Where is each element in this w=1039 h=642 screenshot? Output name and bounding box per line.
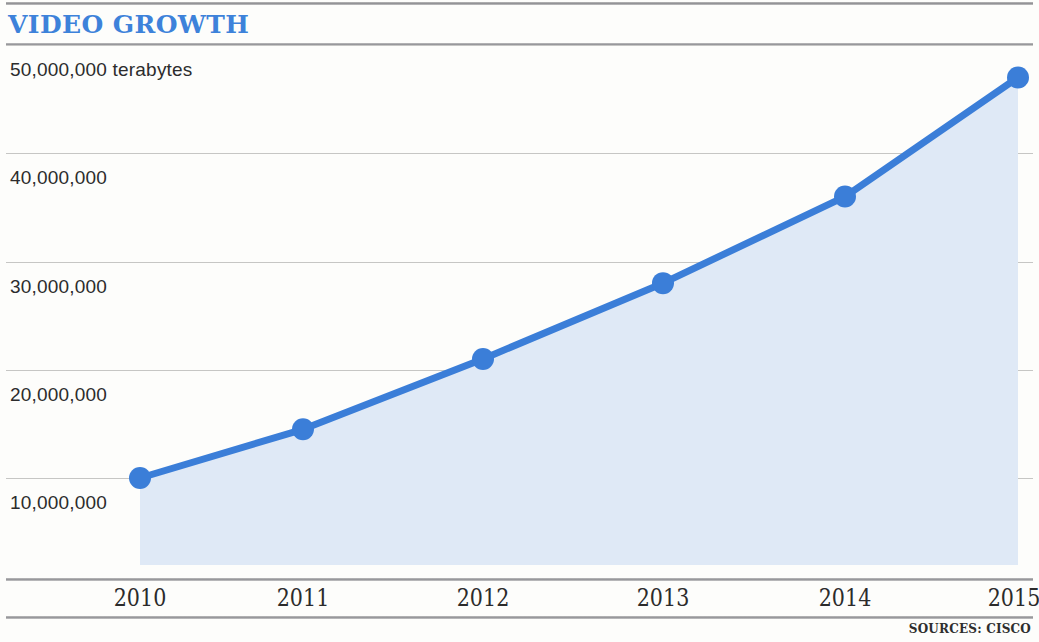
- x-axis-label-2013: 2013: [637, 584, 690, 612]
- x-axis-label-2015: 2015: [988, 584, 1039, 612]
- x-axis-label-2010: 2010: [114, 584, 167, 612]
- sources-caption: SOURCES: CISCO: [909, 622, 1031, 636]
- chart-svg: [0, 45, 1039, 565]
- x-axis-label-2011: 2011: [277, 584, 330, 612]
- top-divider-rule: [6, 2, 1033, 5]
- data-point-2015: [1007, 66, 1029, 88]
- data-point-2014: [834, 186, 856, 208]
- data-point-2010: [129, 467, 151, 489]
- data-point-2012: [472, 348, 494, 370]
- page-title: VIDEO GROWTH: [8, 10, 249, 40]
- x-axis-rule-bottom: [6, 616, 1033, 619]
- x-axis-rule-top: [6, 578, 1033, 581]
- data-point-2013: [652, 272, 674, 294]
- data-point-2011: [292, 418, 314, 440]
- x-axis-label-2012: 2012: [457, 584, 510, 612]
- x-axis-label-2014: 2014: [819, 584, 872, 612]
- plot-area: 50,000,000 terabytes 40,000,000 30,000,0…: [0, 45, 1039, 565]
- chart-page: VIDEO GROWTH 50,000,000 terabytes 40,000…: [0, 0, 1039, 642]
